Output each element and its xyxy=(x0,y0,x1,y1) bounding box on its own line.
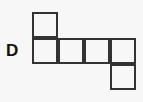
net-square xyxy=(32,12,58,38)
net-square xyxy=(32,38,58,64)
option-label: D xyxy=(6,42,18,59)
net-square xyxy=(110,38,136,64)
net-square xyxy=(58,38,84,64)
net-square xyxy=(84,38,110,64)
net-square xyxy=(110,64,136,90)
